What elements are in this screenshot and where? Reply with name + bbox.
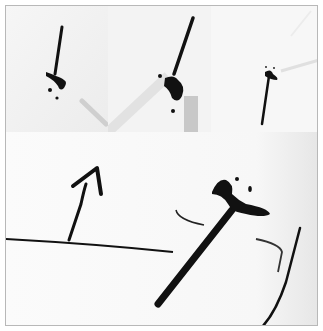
panel-top-right	[211, 6, 318, 132]
ink-stick-figure-1	[6, 6, 108, 132]
panel-top-middle	[108, 6, 211, 132]
panel-bottom	[6, 132, 318, 326]
image-frame: Collage of black ink-like stick figures/…	[5, 5, 318, 326]
panel-top-left	[6, 6, 108, 132]
ink-stick-figure-2	[108, 6, 211, 132]
ink-stick-figure-3	[211, 6, 318, 132]
ink-stick-figure-4	[6, 132, 318, 326]
